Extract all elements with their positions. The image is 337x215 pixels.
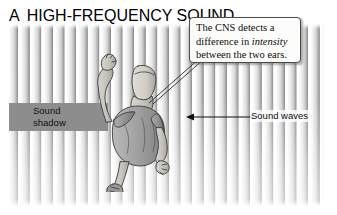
person-outline-group: [98, 54, 169, 192]
callout-line-3: between the two ears.: [196, 48, 295, 62]
panel-letter: A: [9, 7, 20, 25]
person-figure-svg: [72, 44, 176, 192]
callout-line-2: difference in intensity: [196, 35, 295, 49]
sound-waves-label: Sound waves: [250, 110, 309, 122]
callout-box: The CNS detects a difference in intensit…: [189, 17, 301, 63]
person-head: [132, 65, 156, 100]
callout-emphasis-intensity: intensity: [252, 36, 288, 47]
callout-line-2-text: difference in: [196, 36, 252, 47]
callout-line-1: The CNS detects a: [196, 21, 295, 35]
person-hand-left: [101, 54, 116, 70]
person-hand-right: [156, 161, 169, 174]
person-figure-aerial-view: [72, 44, 176, 192]
person-arm-left: [98, 67, 113, 122]
